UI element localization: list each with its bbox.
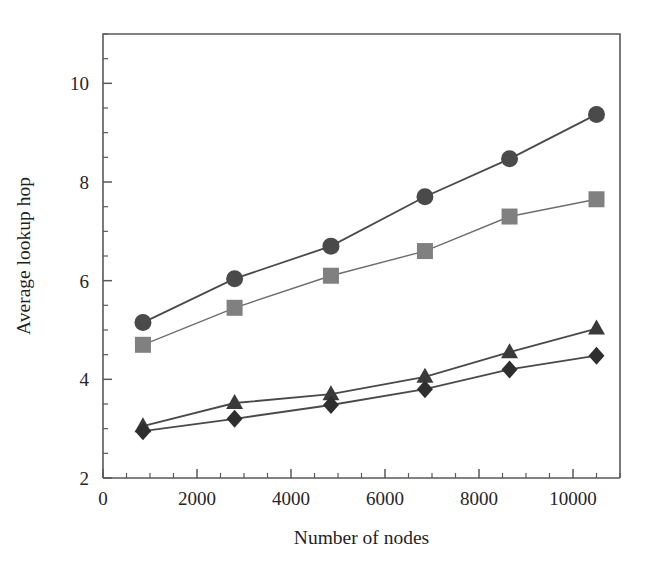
data-point-circle [226, 270, 243, 287]
data-point-square [135, 337, 151, 353]
chart-figure: 0200040006000800010000246810Number of no… [0, 0, 654, 569]
data-point-circle [416, 188, 433, 205]
data-point-square [417, 243, 433, 259]
data-point-square [502, 209, 518, 225]
data-point-triangle [226, 394, 243, 409]
line-chart-canvas: 0200040006000800010000246810Number of no… [0, 0, 654, 569]
data-point-circle [501, 150, 518, 167]
series-line-diamond [143, 356, 597, 431]
y-tick-label: 6 [80, 271, 90, 292]
data-point-circle [322, 238, 339, 255]
data-point-square [589, 191, 605, 207]
data-point-circle [134, 314, 151, 331]
data-point-square [227, 300, 243, 316]
data-point-diamond [502, 360, 518, 378]
series-line-circle [143, 114, 597, 322]
y-tick-label: 2 [80, 468, 90, 489]
x-tick-label: 10000 [549, 488, 597, 509]
x-tick-label: 0 [98, 488, 108, 509]
x-tick-label: 6000 [366, 488, 404, 509]
data-point-circle [588, 106, 605, 123]
x-tick-label: 4000 [272, 488, 310, 509]
data-point-triangle [588, 320, 605, 335]
series-line-square [143, 199, 597, 345]
y-tick-label: 10 [70, 73, 89, 94]
plot-frame [103, 34, 620, 478]
x-tick-label: 8000 [460, 488, 498, 509]
data-point-square [323, 268, 339, 284]
series-line-triangle [143, 329, 597, 427]
data-point-diamond [227, 410, 243, 428]
data-point-diamond [589, 347, 605, 365]
y-tick-label: 8 [80, 172, 90, 193]
data-point-diamond [417, 380, 433, 398]
y-tick-label: 4 [80, 369, 90, 390]
y-axis-title: Average lookup hop [13, 177, 34, 335]
x-axis-title: Number of nodes [294, 527, 429, 548]
x-tick-label: 2000 [178, 488, 216, 509]
